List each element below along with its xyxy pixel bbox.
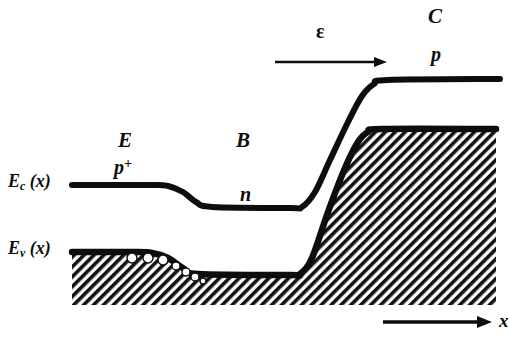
hole-carrier-1 <box>143 253 153 263</box>
conduction-band-argument: (x) <box>30 171 51 191</box>
hole-carrier-5 <box>191 273 199 281</box>
hole-carrier-6 <box>200 278 206 284</box>
emitter-doping-label: p+ <box>114 156 132 177</box>
emitter-region-label: E <box>118 130 132 151</box>
field-arrow <box>275 57 387 67</box>
conduction-band-symbol: E <box>8 171 20 191</box>
collector-doping-label: p <box>431 44 441 64</box>
base-region-label: B <box>236 130 250 151</box>
valence-band-label: Ev (x) <box>8 239 51 260</box>
conduction-band-label: Ec (x) <box>8 172 51 193</box>
valence-band-symbol: E <box>8 238 20 258</box>
valence-band-argument: (x) <box>30 238 51 258</box>
emitter-doping-superscript: + <box>124 155 132 171</box>
x-axis-label: x <box>499 311 509 330</box>
hole-carrier-2 <box>158 255 168 265</box>
base-doping-label: n <box>240 184 251 204</box>
emitter-doping-type: p <box>114 156 124 178</box>
hole-carrier-3 <box>172 262 180 270</box>
collector-region-label: C <box>428 6 442 27</box>
electric-field-symbol-label: ε <box>316 21 325 41</box>
x-axis-arrow <box>383 316 492 328</box>
valence-band-hatch-fill <box>72 129 496 305</box>
hole-carrier-0 <box>127 253 137 263</box>
hole-carrier-4 <box>182 268 190 276</box>
